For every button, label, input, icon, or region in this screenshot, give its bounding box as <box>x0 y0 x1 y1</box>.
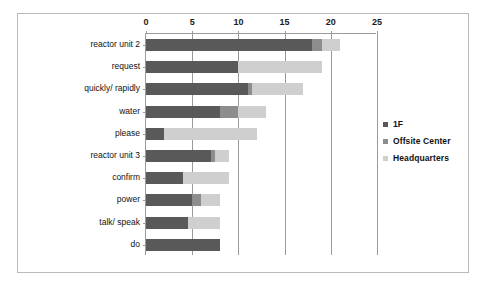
x-gridline <box>377 34 378 255</box>
category-label: please <box>115 127 140 139</box>
bar-segment-1f <box>146 106 220 118</box>
bar-row: request <box>146 56 376 78</box>
bar-segment-1f <box>146 83 248 95</box>
stacked-bar <box>146 239 220 251</box>
category-label: reactor unit 3 <box>90 149 140 161</box>
bar-segment-offsite-center <box>192 194 201 206</box>
x-axis-tick-label: 20 <box>326 17 336 27</box>
bar-segment-headquarters <box>183 172 229 184</box>
bar-segment-1f <box>146 194 192 206</box>
bar-row: talk/ speak <box>146 212 376 234</box>
category-label: quickly/ rapidly <box>84 82 140 94</box>
bar-row: reactor unit 3 <box>146 145 376 167</box>
chart-legend: 1FOffsite CenterHeadquarters <box>383 119 469 170</box>
bar-segment-1f <box>146 239 220 251</box>
plot-area: 0510152025reactor unit 2requestquickly/ … <box>145 33 376 255</box>
stacked-bar <box>146 150 229 162</box>
x-axis-tick-label: 5 <box>190 17 195 27</box>
stacked-bar <box>146 217 220 229</box>
bar-segment-1f <box>146 172 183 184</box>
legend-swatch-icon <box>383 122 388 127</box>
bar-segment-1f <box>146 128 164 140</box>
bar-segment-headquarters <box>238 61 321 73</box>
stacked-bar <box>146 194 220 206</box>
bar-segment-1f <box>146 39 312 51</box>
bar-segment-1f <box>146 150 211 162</box>
bar-segment-headquarters <box>238 106 266 118</box>
category-label: reactor unit 2 <box>90 38 140 50</box>
legend-item[interactable]: 1F <box>383 119 469 129</box>
bar-segment-offsite-center <box>220 106 238 118</box>
bar-row: quickly/ rapidly <box>146 78 376 100</box>
legend-item[interactable]: Headquarters <box>383 153 469 163</box>
x-axis-tick-label: 25 <box>372 17 382 27</box>
category-label: talk/ speak <box>99 216 140 228</box>
stacked-bar <box>146 106 266 118</box>
bar-row: do <box>146 234 376 256</box>
bar-segment-headquarters <box>164 128 256 140</box>
stacked-bar <box>146 128 257 140</box>
x-axis-tick <box>377 31 378 34</box>
bar-segment-headquarters <box>188 217 220 229</box>
legend-label: Headquarters <box>393 153 449 163</box>
legend-swatch-icon <box>383 156 388 161</box>
bar-segment-1f <box>146 217 188 229</box>
bar-segment-headquarters <box>215 150 229 162</box>
bar-row: please <box>146 123 376 145</box>
category-label: request <box>112 60 140 72</box>
bar-segment-headquarters <box>201 194 219 206</box>
x-axis-tick-label: 15 <box>280 17 290 27</box>
bar-row: water <box>146 101 376 123</box>
legend-swatch-icon <box>383 139 388 144</box>
x-axis-tick-label: 0 <box>143 17 148 27</box>
bar-segment-offsite-center <box>312 39 321 51</box>
chart-frame: 0510152025reactor unit 2requestquickly/ … <box>17 13 469 273</box>
bar-segment-headquarters <box>322 39 340 51</box>
legend-label: 1F <box>393 119 403 129</box>
stacked-bar <box>146 83 303 95</box>
bar-row: power <box>146 189 376 211</box>
bar-row: confirm <box>146 167 376 189</box>
bar-segment-1f <box>146 61 238 73</box>
x-axis-tick-label: 10 <box>233 17 243 27</box>
category-label: confirm <box>112 171 140 183</box>
category-label: power <box>117 193 140 205</box>
stacked-bar <box>146 61 322 73</box>
stacked-bar <box>146 172 229 184</box>
category-label: water <box>119 105 140 117</box>
category-label: do <box>131 238 140 250</box>
legend-label: Offsite Center <box>393 136 451 146</box>
stacked-bar <box>146 39 340 51</box>
bar-row: reactor unit 2 <box>146 34 376 56</box>
legend-item[interactable]: Offsite Center <box>383 136 469 146</box>
bar-segment-headquarters <box>252 83 303 95</box>
